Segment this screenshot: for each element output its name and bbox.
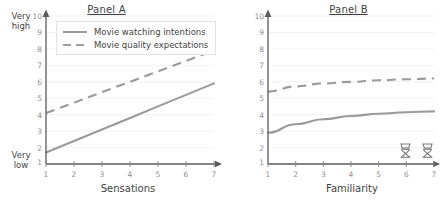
legend-item-intentions: Movie watching intentions	[62, 25, 208, 38]
film-reel-icon	[421, 143, 434, 158]
x-axis-label-a: Sensations	[48, 183, 208, 194]
x-tick-a-3: 3	[96, 170, 108, 179]
series-line-intentions-a	[46, 83, 214, 152]
legend-item-expectations: Movie quality expectations	[62, 38, 208, 51]
x-tick-b-5: 5	[373, 170, 385, 179]
x-tick-a-1: 1	[40, 170, 52, 179]
x-tick-b-3: 3	[317, 170, 329, 179]
panel-b-svg	[268, 16, 434, 164]
y-tick-a-10: 10	[28, 12, 42, 21]
series-line-expectations-b	[268, 79, 434, 92]
legend-label-expectations: Movie quality expectations	[94, 40, 208, 50]
y-tick-a-3: 3	[28, 127, 42, 136]
x-tick-b-4: 4	[345, 170, 357, 179]
x-tick-b-7: 7	[428, 170, 440, 179]
y-tick-a-7: 7	[28, 61, 42, 70]
dashed-line-swatch-icon	[62, 40, 88, 50]
legend-label-intentions: Movie watching intentions	[94, 27, 206, 37]
x-tick-b-1: 1	[262, 170, 274, 179]
y-tick-a-8: 8	[28, 45, 42, 54]
y-tick-a-9: 9	[28, 28, 42, 37]
y-tick-b-9: 9	[250, 28, 264, 37]
y-tick-b-5: 5	[250, 94, 264, 103]
y-tick-a-1: 1	[28, 158, 42, 167]
y-tick-a-2: 2	[28, 144, 42, 153]
y-tick-b-10: 10	[250, 12, 264, 21]
x-tick-a-5: 5	[152, 170, 164, 179]
solid-line-swatch-icon	[62, 27, 88, 37]
y-tick-b-7: 7	[250, 61, 264, 70]
y-tick-b-1: 1	[250, 158, 264, 167]
y-tick-b-6: 6	[250, 78, 264, 87]
y-tick-b-2: 2	[250, 144, 264, 153]
film-reel-icon	[399, 143, 412, 158]
y-tick-b-8: 8	[250, 45, 264, 54]
x-tick-a-4: 4	[124, 170, 136, 179]
y-tick-b-4: 4	[250, 111, 264, 120]
y-tick-a-6: 6	[28, 78, 42, 87]
y-tick-b-3: 3	[250, 127, 264, 136]
legend: Movie watching intentions Movie quality …	[56, 21, 216, 55]
y-tick-a-4: 4	[28, 111, 42, 120]
y-tick-a-5: 5	[28, 94, 42, 103]
x-tick-a-7: 7	[208, 170, 220, 179]
x-tick-a-6: 6	[180, 170, 192, 179]
x-axis-label-b: Familiarity	[272, 183, 432, 194]
x-tick-b-2: 2	[290, 170, 302, 179]
panel-b-plot-area	[268, 16, 434, 164]
x-tick-b-6: 6	[400, 170, 412, 179]
x-tick-a-2: 2	[68, 170, 80, 179]
